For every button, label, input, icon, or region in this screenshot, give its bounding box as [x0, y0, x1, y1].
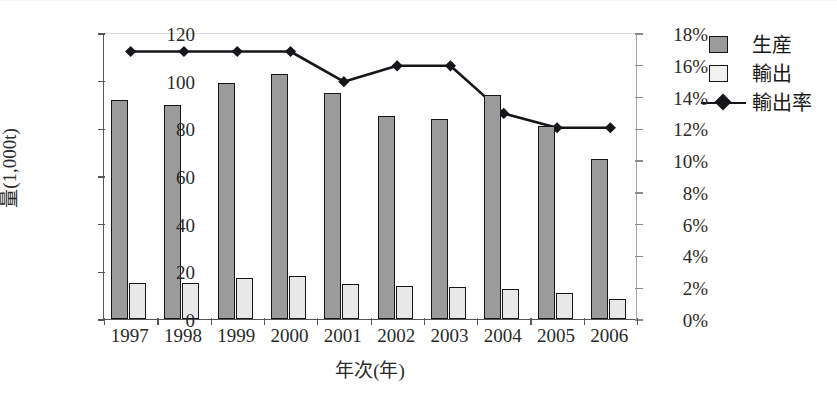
- y2-axis-tick: [635, 256, 643, 257]
- x-axis-tick-label: 2001: [324, 326, 362, 345]
- bar-export: [236, 278, 253, 319]
- y2-axis-tick: [635, 192, 643, 193]
- bar-export: [556, 293, 573, 319]
- x-axis-tick-label: 2004: [484, 326, 522, 345]
- chart-figure: 量(1,000t) 年次(年) 生産 輸出 輸出率 020406080100: [0, 0, 837, 393]
- bar-export: [502, 289, 519, 319]
- y-axis-tick: [98, 33, 105, 34]
- export-rate-marker: [392, 60, 403, 71]
- y2-axis-tick: [635, 97, 643, 98]
- y-axis-tick-label: 80: [176, 120, 195, 139]
- x-axis-tick: [371, 318, 372, 325]
- y2-axis-tick: [635, 288, 643, 289]
- legend-item-export-rate[interactable]: 輸出率: [700, 88, 835, 117]
- x-axis-tick-label: 1997: [111, 326, 149, 345]
- legend-label-export: 輸出: [748, 64, 792, 84]
- x-axis-tick: [157, 318, 158, 325]
- bar-export: [609, 299, 626, 319]
- export-rate-marker: [338, 76, 349, 87]
- legend-label-export-rate: 輸出率: [748, 93, 812, 113]
- y2-axis-tick: [635, 129, 643, 130]
- legend-item-production[interactable]: 生産: [700, 30, 835, 59]
- legend-item-export[interactable]: 輸出: [700, 59, 835, 88]
- y-axis-tick: [98, 176, 105, 177]
- export-rate-marker: [232, 46, 243, 57]
- x-axis-tick-label: 2006: [590, 326, 628, 345]
- y2-axis-tick: [635, 33, 643, 34]
- y2-axis-tick: [635, 65, 643, 66]
- x-axis-title: 年次(年): [335, 355, 405, 382]
- x-axis-tick: [637, 318, 638, 325]
- x-axis-tick: [584, 318, 585, 325]
- x-axis-tick-label: 2005: [537, 326, 575, 345]
- export-rate-line: [131, 52, 611, 128]
- y2-axis-tick: [635, 224, 643, 225]
- bar-production: [324, 93, 341, 319]
- bar-production: [591, 159, 608, 319]
- bar-production: [111, 100, 128, 319]
- x-axis-tick-label: 2002: [377, 326, 415, 345]
- x-axis-tick: [317, 318, 318, 325]
- bar-export: [396, 286, 413, 319]
- legend-label-production: 生産: [748, 35, 792, 55]
- y2-axis-tick-label: 0%: [650, 311, 708, 330]
- y-axis-tick-label: 60: [176, 168, 195, 187]
- y2-axis-tick-label: 4%: [650, 247, 708, 266]
- scan-edge: [0, 0, 837, 1]
- export-rate-marker: [605, 122, 616, 133]
- x-axis-tick-label: 2000: [271, 326, 309, 345]
- y2-axis-tick-label: 12%: [650, 120, 708, 139]
- x-axis-tick-label: 1999: [217, 326, 255, 345]
- y-axis-tick: [98, 81, 105, 82]
- y-axis-tick-label: 20: [176, 263, 195, 282]
- bar-production: [218, 83, 235, 319]
- y-axis-tick: [98, 129, 105, 130]
- export-rate-marker: [178, 46, 189, 57]
- x-axis-tick: [104, 318, 105, 325]
- export-rate-marker: [285, 46, 296, 57]
- x-axis-tick: [477, 318, 478, 325]
- y2-axis-tick-label: 14%: [650, 88, 708, 107]
- y-axis-tick: [98, 224, 105, 225]
- y-axis-tick-label: 120: [167, 25, 196, 44]
- export-rate-marker: [125, 46, 136, 57]
- y2-axis-tick-label: 8%: [650, 183, 708, 202]
- y-axis-title: 量(1,000t): [0, 128, 21, 208]
- y-axis-tick-label: 100: [167, 72, 196, 91]
- x-axis-tick-label: 2003: [430, 326, 468, 345]
- y-axis-tick: [98, 272, 105, 273]
- bar-export: [342, 284, 359, 319]
- bar-production: [271, 74, 288, 319]
- x-axis-tick: [264, 318, 265, 325]
- y2-axis-tick-label: 10%: [650, 152, 708, 171]
- export-rate-marker: [445, 60, 456, 71]
- bar-production: [431, 119, 448, 319]
- x-axis-tick: [424, 318, 425, 325]
- bar-export: [289, 276, 306, 319]
- bar-export: [129, 283, 146, 319]
- y-axis-tick-label: 40: [176, 215, 195, 234]
- right-axis-line: [636, 34, 637, 321]
- bar-export: [449, 287, 466, 319]
- x-axis-tick-label: 1998: [164, 326, 202, 345]
- bar-production: [538, 126, 555, 319]
- x-axis-tick: [530, 318, 531, 325]
- x-axis-tick: [211, 318, 212, 325]
- y2-axis-tick-label: 2%: [650, 279, 708, 298]
- y2-axis-tick-label: 18%: [650, 25, 708, 44]
- bar-production: [378, 116, 395, 319]
- bar-production: [484, 95, 501, 319]
- chart-legend: 生産 輸出 輸出率: [700, 30, 835, 117]
- y2-axis-tick: [635, 160, 643, 161]
- y2-axis-tick-label: 16%: [650, 56, 708, 75]
- y2-axis-tick-label: 6%: [650, 215, 708, 234]
